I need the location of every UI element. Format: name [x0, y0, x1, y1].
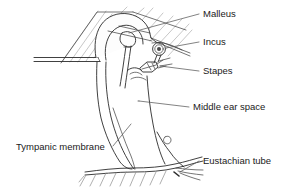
- label-middle-ear-space: Middle ear space: [193, 101, 265, 112]
- ear-canal: [34, 58, 100, 62]
- label-malleus: Malleus: [203, 8, 236, 19]
- label-tympanic-membrane: Tympanic membrane: [16, 141, 105, 152]
- label-stapes: Stapes: [203, 65, 233, 76]
- leader-middle-ear-space: [139, 101, 189, 107]
- leader-tympanic-membrane: [113, 124, 131, 146]
- anatomy-illustration: Malleus Incus Stapes Middle ear space Ty…: [0, 0, 292, 188]
- ear-anatomy-figure: Malleus Incus Stapes Middle ear space Ty…: [0, 0, 292, 188]
- ossicle-detail: [128, 68, 146, 80]
- lower-bone-hatching: [79, 171, 166, 186]
- leader-stapes: [160, 66, 199, 71]
- middle-ear-cavity: [138, 76, 184, 167]
- label-eustachian-tube: Eustachian tube: [203, 155, 271, 166]
- tympanic-membrane-shape: [97, 62, 135, 169]
- label-incus: Incus: [203, 36, 226, 47]
- stapes-bone: [140, 58, 172, 72]
